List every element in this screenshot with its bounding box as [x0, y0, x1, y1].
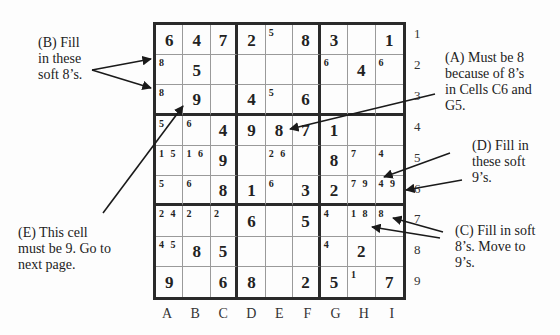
cell-G1[interactable]: 3: [321, 25, 348, 55]
cell-B2[interactable]: 5: [183, 55, 210, 85]
cell-C5[interactable]: 9: [211, 146, 238, 176]
cell-I8[interactable]: [376, 237, 403, 267]
column-label: A: [153, 306, 181, 322]
note-a-line: because of 8’s: [445, 66, 532, 82]
cell-D2[interactable]: [238, 55, 265, 85]
cell-C4[interactable]: 4: [211, 116, 238, 146]
cell-B1[interactable]: 4: [183, 25, 210, 55]
cell-I5[interactable]: 4: [376, 146, 403, 176]
note-c-line: (C) Fill in soft: [455, 223, 536, 239]
cell-A3[interactable]: 8: [156, 85, 183, 115]
cell-H1[interactable]: [348, 25, 375, 55]
cell-candidates: 4: [324, 208, 331, 219]
cell-value: 1: [376, 31, 403, 51]
cell-E2[interactable]: [266, 55, 293, 85]
cell-F1[interactable]: 8: [293, 25, 320, 55]
cell-D8[interactable]: [238, 237, 265, 267]
row-label: 4: [414, 119, 421, 135]
cell-H4[interactable]: [348, 116, 375, 146]
cell-B7[interactable]: 2: [183, 206, 210, 236]
cell-E6[interactable]: 6: [266, 176, 293, 206]
cell-A2[interactable]: 8: [156, 55, 183, 85]
cell-H7[interactable]: 1 8: [348, 206, 375, 236]
cell-I6[interactable]: 4 9: [376, 176, 403, 206]
cell-A9[interactable]: 9: [156, 267, 183, 297]
cell-I7[interactable]: 8: [376, 206, 403, 236]
column-label: G: [322, 306, 350, 322]
cell-F9[interactable]: 2: [293, 267, 320, 297]
cell-F6[interactable]: 3: [293, 176, 320, 206]
cell-H2[interactable]: 4: [348, 55, 375, 85]
cell-G2[interactable]: 6: [321, 55, 348, 85]
cell-value: 4: [348, 61, 374, 81]
cell-E3[interactable]: 5: [266, 85, 293, 115]
cell-A7[interactable]: 2 4: [156, 206, 183, 236]
cell-E8[interactable]: [266, 237, 293, 267]
cell-C2[interactable]: [211, 55, 238, 85]
cell-D4[interactable]: 9: [238, 116, 265, 146]
cell-F4[interactable]: 7: [293, 116, 320, 146]
column-label: B: [181, 306, 209, 322]
cell-D3[interactable]: 4: [238, 85, 265, 115]
cell-D9[interactable]: 8: [238, 267, 265, 297]
cell-C9[interactable]: 6: [211, 267, 238, 297]
cell-H5[interactable]: 7: [348, 146, 375, 176]
cell-C6[interactable]: 8: [211, 176, 238, 206]
cell-F8[interactable]: [293, 237, 320, 267]
cell-E7[interactable]: [266, 206, 293, 236]
note-e-line: next page.: [18, 257, 111, 273]
row-label: 2: [414, 57, 421, 73]
cell-G7[interactable]: 4: [321, 206, 348, 236]
cell-E4[interactable]: 8: [266, 116, 293, 146]
column-label: C: [209, 306, 237, 322]
note-e-line: (E) This cell: [18, 225, 111, 241]
cell-C3[interactable]: [211, 85, 238, 115]
cell-H6[interactable]: 7 9: [348, 176, 375, 206]
cell-A1[interactable]: 6: [156, 25, 183, 55]
cell-A6[interactable]: 5: [156, 176, 183, 206]
cell-E5[interactable]: 2 6: [266, 146, 293, 176]
cell-G9[interactable]: 5: [321, 267, 348, 297]
cell-B5[interactable]: 1 6: [183, 146, 210, 176]
cell-G5[interactable]: 8: [321, 146, 348, 176]
cell-B3[interactable]: 9: [183, 85, 210, 115]
cell-B8[interactable]: 8: [183, 237, 210, 267]
cell-E9[interactable]: [266, 267, 293, 297]
cell-G4[interactable]: 1: [321, 116, 348, 146]
note-d-line: 9’s.: [472, 170, 529, 186]
cell-value: 8: [321, 151, 347, 171]
cell-B9[interactable]: [183, 267, 210, 297]
cell-B6[interactable]: 6: [183, 176, 210, 206]
cell-C8[interactable]: 5: [211, 237, 238, 267]
cell-D7[interactable]: 6: [238, 206, 265, 236]
cell-A8[interactable]: 4 5: [156, 237, 183, 267]
cell-value: 7: [376, 273, 403, 293]
cell-C1[interactable]: 7: [211, 25, 238, 55]
cell-H9[interactable]: 1: [348, 267, 375, 297]
cell-I3[interactable]: [376, 85, 403, 115]
note-a: (A) Must be 8 because of 8’s in Cells C6…: [445, 50, 532, 114]
cell-D5[interactable]: [238, 146, 265, 176]
cell-B4[interactable]: 6: [183, 116, 210, 146]
cell-F3[interactable]: 6: [293, 85, 320, 115]
cell-I2[interactable]: 6: [376, 55, 403, 85]
cell-I4[interactable]: [376, 116, 403, 146]
cell-E1[interactable]: 5: [266, 25, 293, 55]
cell-H3[interactable]: [348, 85, 375, 115]
cell-F2[interactable]: [293, 55, 320, 85]
cell-G6[interactable]: 2: [321, 176, 348, 206]
cell-H8[interactable]: 2: [348, 237, 375, 267]
note-c: (C) Fill in soft 8’s. Move to 9’s.: [455, 223, 536, 271]
cell-A5[interactable]: 1 5: [156, 146, 183, 176]
cell-F5[interactable]: [293, 146, 320, 176]
cell-G8[interactable]: 4: [321, 237, 348, 267]
cell-F7[interactable]: 5: [293, 206, 320, 236]
note-e-line: must be 9. Go to: [18, 241, 111, 257]
cell-D6[interactable]: 1: [238, 176, 265, 206]
cell-D1[interactable]: 2: [238, 25, 265, 55]
cell-G3[interactable]: [321, 85, 348, 115]
cell-I9[interactable]: 7: [376, 267, 403, 297]
cell-C7[interactable]: 2: [211, 206, 238, 236]
cell-A4[interactable]: 5: [156, 116, 183, 146]
cell-I1[interactable]: 1: [376, 25, 403, 55]
